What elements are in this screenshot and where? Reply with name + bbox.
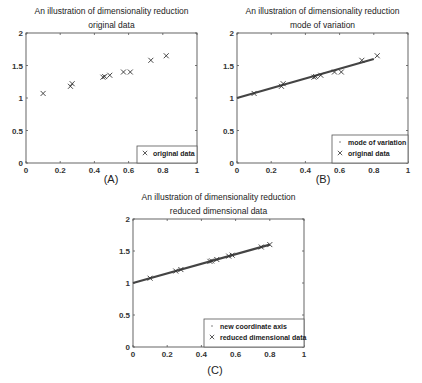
x-tick-label: 0 (131, 350, 136, 359)
y-tick-label: 1.5 (12, 62, 24, 71)
y-tick-label: 0.5 (12, 127, 24, 136)
chart-panel-b: An illustration of dimensionality reduct… (211, 0, 422, 192)
x-tick-label: 0.2 (55, 166, 67, 175)
x-tick-label: 1 (302, 350, 307, 359)
scatter-plot-c: An illustration of dimensionality reduct… (106, 186, 317, 383)
x-tick-label: 1 (195, 166, 200, 175)
legend: mode of variationoriginal data (332, 135, 408, 163)
scatter-plot-a: An illustration of dimensionality reduct… (0, 0, 211, 192)
chart-title: An illustration of dimensionality reduct… (245, 6, 399, 16)
y-tick-label: 2 (230, 29, 235, 38)
chart-subtitle: reduced dimensional data (170, 206, 268, 216)
x-tick-label: 0 (24, 166, 29, 175)
chart-subtitle: mode of variation (290, 20, 355, 30)
y-tick-label: 0 (230, 159, 235, 168)
legend-label: mode of variation (348, 139, 406, 146)
y-tick-label: 1.5 (223, 62, 235, 71)
panel-label-a: (A) (91, 173, 131, 185)
chart-title: An illustration of dimensionality reduct… (34, 6, 188, 16)
y-tick-label: 0.5 (119, 311, 131, 320)
chart-panel-c: An illustration of dimensionality reduct… (106, 186, 317, 383)
y-tick-label: 0 (19, 159, 24, 168)
legend-label: original data (348, 150, 390, 158)
x-tick-label: 0.2 (162, 350, 174, 359)
x-tick-label: 0.4 (196, 350, 208, 359)
x-tick-label: 0.8 (264, 350, 276, 359)
legend-dot-icon (211, 325, 212, 326)
legend-label: new coordinate axis (220, 323, 287, 330)
x-tick-label: 0.8 (157, 166, 169, 175)
chart-subtitle: original data (88, 20, 135, 30)
y-tick-label: 1 (230, 94, 235, 103)
y-tick-label: 1.5 (119, 247, 131, 256)
y-tick-label: 2 (19, 29, 24, 38)
legend-label: original data (153, 150, 195, 158)
x-tick-label: 0 (235, 166, 240, 175)
plot-frame (26, 33, 197, 163)
scatter-plot-b: An illustration of dimensionality reduct… (211, 0, 422, 192)
legend-dot-icon (339, 141, 340, 142)
x-tick-label: 0.2 (266, 166, 278, 175)
legend: new coordinate axisreduced dimensional d… (204, 319, 306, 347)
legend: original data (137, 146, 197, 163)
y-tick-label: 0.5 (223, 127, 235, 136)
panel-label-c: (C) (195, 364, 235, 376)
y-tick-label: 0 (126, 343, 131, 352)
panel-label-b: (B) (303, 173, 343, 185)
chart-panel-a: An illustration of dimensionality reduct… (0, 0, 211, 192)
chart-title: An illustration of dimensionality reduct… (141, 192, 295, 202)
y-tick-label: 1 (19, 94, 24, 103)
y-tick-label: 1 (126, 279, 131, 288)
x-tick-label: 0.6 (230, 350, 242, 359)
x-tick-label: 1 (406, 166, 411, 175)
x-tick-label: 0.8 (368, 166, 380, 175)
y-tick-label: 2 (126, 215, 131, 224)
legend-label: reduced dimensional data (220, 334, 306, 341)
